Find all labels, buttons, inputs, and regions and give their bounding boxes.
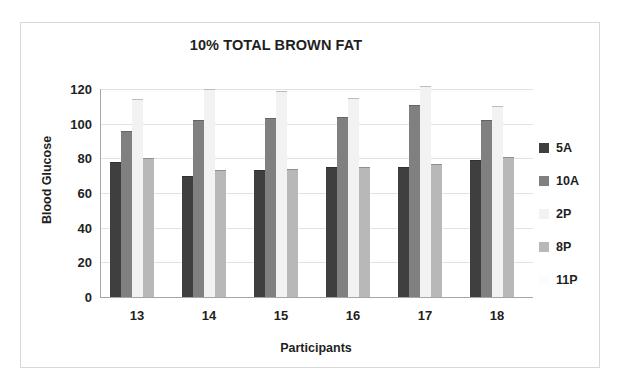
y-axis-tick-label: 0 [85,290,92,305]
bar-2p [276,91,287,297]
bar-series-layer [101,89,533,297]
legend-label: 10A [556,174,579,188]
bar-8p [503,157,514,297]
bar-10a [481,120,492,297]
bar-10a [193,120,204,297]
bar-group [108,89,167,297]
bar-8p [143,158,154,297]
bar-10a [409,105,420,297]
bar-5a [398,167,409,297]
chart-title: 10% TOTAL BROWN FAT [21,37,531,53]
legend-swatch-icon [539,176,549,186]
bar-2p [348,98,359,297]
legend-item[interactable]: 2P [539,197,601,230]
y-axis-tick-label: 60 [78,186,92,201]
y-axis-tick-label: 80 [78,151,92,166]
bar-8p [215,170,226,297]
bar-5a [326,167,337,297]
x-axis-tick-label: 18 [490,308,504,323]
legend-swatch-icon [539,275,549,285]
bar-2p [492,106,503,297]
legend-swatch-icon [539,209,549,219]
y-axis-tick-label: 20 [78,255,92,270]
legend-label: 11P [556,273,578,287]
y-axis-tick-label: 120 [70,82,92,97]
bar-group [396,89,455,297]
x-axis-tick-label: 14 [202,308,216,323]
legend: 5A10A2P8P11P [539,131,601,296]
bar-group [252,89,311,297]
bar-2p [132,99,143,297]
y-axis-tick-label: 40 [78,220,92,235]
bar-8p [287,169,298,297]
bar-8p [359,167,370,297]
legend-label: 2P [556,207,571,221]
bar-8p [431,164,442,297]
plot-area: 020406080100120 131415161718 [100,89,533,298]
x-axis-tick-label: 13 [130,308,144,323]
y-axis-title: Blood Glucose [40,120,54,240]
y-axis-tick-label: 100 [70,116,92,131]
legend-item[interactable]: 11P [539,263,601,296]
bar-2p [204,89,215,297]
bar-group [180,89,239,297]
bar-10a [265,118,276,297]
legend-label: 8P [556,240,571,254]
legend-swatch-icon [539,143,549,153]
legend-label: 5A [556,141,572,155]
x-axis-tick-label: 16 [346,308,360,323]
bar-group [324,89,383,297]
legend-item[interactable]: 5A [539,131,601,164]
bar-5a [470,160,481,297]
bar-group [468,89,527,297]
bar-5a [254,170,265,297]
bar-5a [110,162,121,297]
bar-5a [182,176,193,297]
x-axis-title: Participants [100,341,532,355]
legend-item[interactable]: 10A [539,164,601,197]
x-axis-tick-label: 15 [274,308,288,323]
x-axis-tick-label: 17 [418,308,432,323]
bar-10a [337,117,348,297]
chart-container: 10% TOTAL BROWN FAT Blood Glucose 020406… [20,22,600,368]
bar-10a [121,131,132,297]
bar-2p [420,86,431,297]
legend-swatch-icon [539,242,549,252]
legend-item[interactable]: 8P [539,230,601,263]
